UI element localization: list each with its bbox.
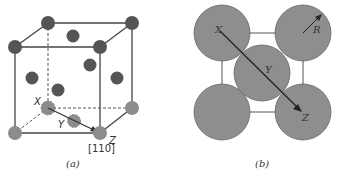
label-z-b: Z [301,112,310,123]
panel-b-plane: X Y Z R (b) [194,5,331,169]
atom-back-face [84,59,97,72]
caption-b: (b) [255,158,269,169]
label-x: X [33,96,42,107]
face-atoms [26,30,124,97]
atom-front-face [52,84,65,97]
label-x-b: X [214,24,223,35]
direction-arrow-110 [48,108,99,133]
atom-right-face [111,72,124,85]
direction-label: [110] [88,143,115,154]
atom-left-face [26,72,39,85]
fcc-diagram: X Y Z [110] (a) X Y Z R (b) [0,0,340,176]
radius-label: R [312,24,321,35]
label-y: Y [58,119,65,130]
caption-a: (a) [66,158,80,169]
atom-top-face [67,30,80,43]
panel-a-unit-cell: X Y Z [110] (a) [8,16,139,169]
